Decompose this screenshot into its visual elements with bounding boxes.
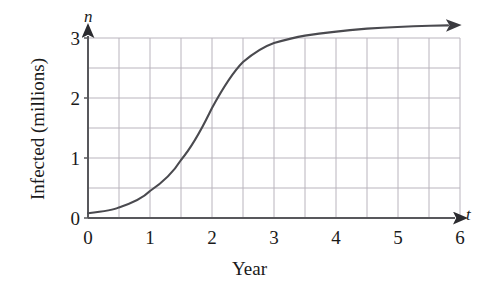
x-tick-label-5: 5 <box>383 228 413 247</box>
x-axis-variable-label: t <box>466 206 471 223</box>
y-tick-label-1: 1 <box>54 149 80 168</box>
chart-figure: 3 2 1 0 0 1 2 3 4 5 6 n t Year Infected … <box>0 0 499 289</box>
x-tick-label-0: 0 <box>73 228 103 247</box>
x-tick-label-1: 1 <box>135 228 165 247</box>
y-tick-label-2: 2 <box>54 89 80 108</box>
x-tick-label-4: 4 <box>321 228 351 247</box>
x-tick-label-3: 3 <box>259 228 289 247</box>
logistic-growth-curve <box>88 25 448 213</box>
x-tick-label-2: 2 <box>197 228 227 247</box>
x-tick-label-6: 6 <box>445 228 475 247</box>
y-axis-title: Infected (millions) <box>27 29 49 229</box>
x-axis-title: Year <box>0 258 499 280</box>
y-axis-variable-label: n <box>84 8 93 25</box>
y-tick-label-0: 0 <box>54 209 80 228</box>
y-tick-label-3: 3 <box>54 29 80 48</box>
